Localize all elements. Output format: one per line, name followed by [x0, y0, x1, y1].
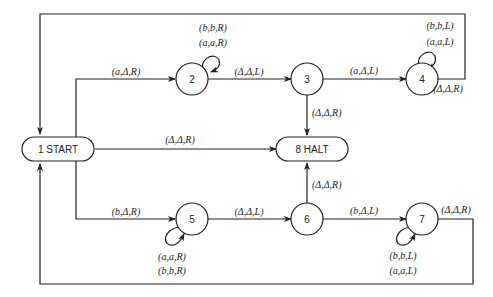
- edge-label-2-self-bottom: (a,a,R): [199, 37, 227, 49]
- state-2-label: 2: [189, 74, 195, 85]
- state-4-label: 4: [419, 74, 425, 85]
- state-1-label: 1 START: [38, 144, 78, 155]
- edge-label-5-self-top: (a,a,R): [158, 251, 186, 263]
- edge-label-5-6: (Δ,Δ,L): [235, 206, 265, 218]
- state-5-label: 5: [189, 214, 195, 225]
- state-3-label: 3: [304, 74, 310, 85]
- edge-label-4-1: (Δ,Δ,R): [433, 83, 463, 95]
- edge-label-3-4: (a,Δ,L): [350, 65, 379, 77]
- edge-label-2-self-top: (b,b,R): [199, 22, 227, 34]
- edge-label-4-self-top: (b,b,L): [426, 20, 454, 32]
- edge-label-3-8: (Δ,Δ,R): [312, 107, 342, 119]
- state-diagram: 1 START 2 3 4 5 6 7 8 HALT (a,Δ,R) (b,b,…: [0, 0, 493, 297]
- edge-label-1-8: (Δ,Δ,R): [165, 134, 195, 146]
- edge-label-7-self-top: (b,b,L): [389, 250, 417, 262]
- edge-label-6-8: (Δ,Δ,R): [312, 179, 342, 191]
- edge-1-2: [76, 79, 175, 137]
- state-8-label: 8 HALT: [295, 144, 328, 155]
- edge-label-1-5: (b,Δ,R): [112, 206, 141, 218]
- edge-label-2-3: (Δ,Δ,L): [235, 66, 265, 78]
- state-6-label: 6: [304, 214, 310, 225]
- edge-label-1-2: (a,Δ,R): [112, 66, 141, 78]
- edge-label-7-self-bottom: (a,a,L): [389, 265, 417, 277]
- edge-label-7-1: (Δ,Δ,R): [441, 204, 471, 216]
- edge-label-6-7: (b,Δ,L): [350, 205, 379, 217]
- state-7-label: 7: [419, 214, 425, 225]
- edge-label-4-self-bottom: (a,a,L): [426, 36, 454, 48]
- edge-label-5-self-bottom: (b,b,R): [158, 265, 186, 277]
